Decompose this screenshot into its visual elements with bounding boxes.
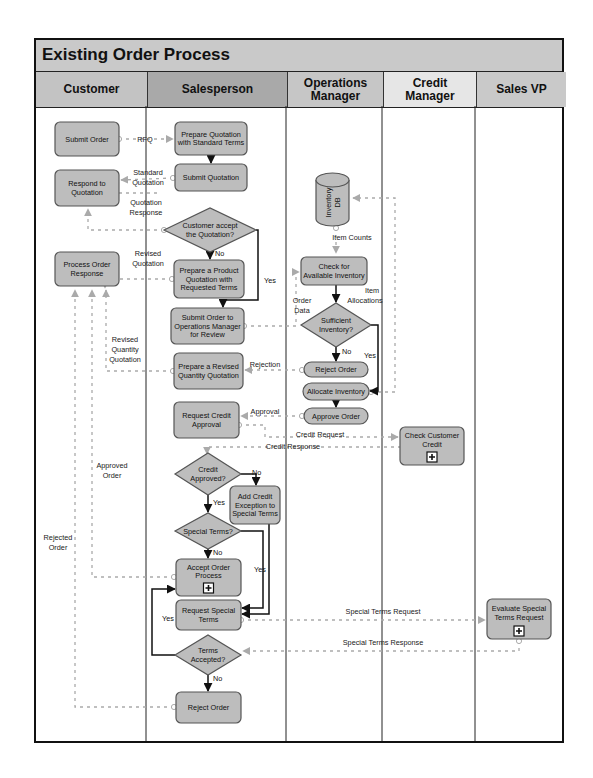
- message-flow-label: Order: [103, 471, 122, 480]
- node-label: Quantity Quotation: [178, 371, 239, 380]
- node-label: Submit Order: [65, 135, 109, 144]
- node-label: Prepare a Product: [179, 266, 238, 275]
- node-label: Check for: [318, 262, 350, 271]
- gateway-terms-accepted[interactable]: TermsAccepted?: [175, 635, 241, 675]
- node-label: Quotation: [71, 188, 103, 197]
- subprocess-plus-icon: [514, 626, 524, 636]
- node-label: Customer accept: [182, 221, 237, 230]
- flow-diagram-canvas: Submit OrderRespond toQuotationProcess O…: [0, 0, 593, 778]
- gateway-sufficient-inventory[interactable]: SufficientInventory?: [301, 303, 371, 347]
- node-label: Exception to: [235, 501, 275, 510]
- sequence-flow-label: No: [252, 468, 261, 477]
- task-reject-order-ops[interactable]: Reject Order: [304, 362, 368, 377]
- message-flow-label: Approval: [251, 407, 280, 416]
- node-label: Submit Order to: [182, 313, 234, 322]
- task-accept-order-process[interactable]: Accept OrderProcess: [176, 559, 241, 596]
- node-label: Credit: [422, 440, 441, 449]
- message-flow-label: Response: [130, 208, 163, 217]
- task-prepare-quotation[interactable]: Prepare Quotationwith Standard Terms: [175, 122, 247, 155]
- inventory-db-datastore: InventoryDB: [316, 173, 349, 226]
- message-flow-label: Order: [49, 543, 68, 552]
- message-flow-label: Order: [293, 296, 312, 305]
- task-check-inventory[interactable]: Check forAvailable Inventory: [301, 257, 367, 285]
- datastore-label: Inventory: [324, 187, 333, 217]
- node-label: Inventory?: [319, 325, 353, 334]
- cylinder-top: [316, 173, 349, 187]
- message-flow-label: Data: [294, 306, 310, 315]
- node-label: Respond to: [68, 179, 105, 188]
- node-label: Requested Terms: [180, 283, 237, 292]
- node-label: Process: [195, 571, 222, 580]
- node-label: Quotation with: [186, 275, 233, 284]
- task-check-customer-credit[interactable]: Check CustomerCredit: [400, 427, 464, 465]
- node-label: the Quotation?: [186, 230, 234, 239]
- gateway-customer-accept[interactable]: Customer acceptthe Quotation?: [164, 208, 256, 252]
- message-flow-label: Revised: [135, 249, 161, 258]
- sequence-flow-label: No: [213, 548, 222, 557]
- sequence-flow-label: Yes: [254, 565, 266, 574]
- message-flow-label: RFQ: [137, 135, 153, 144]
- task-reject-order-sales[interactable]: Reject Order: [176, 692, 241, 723]
- message-flow-label: Quotation: [132, 259, 164, 268]
- node-label: Process Order: [63, 260, 111, 269]
- sequence-flow-label: Yes: [213, 498, 225, 507]
- node-label: Request Special: [182, 606, 236, 615]
- task-process-order-response[interactable]: Process OrderResponse: [55, 252, 119, 286]
- node-label: Request Credit: [182, 411, 231, 420]
- sequence-flow-label: No: [215, 249, 224, 258]
- message-flow-label: Item Counts: [332, 233, 372, 242]
- task-submit-order[interactable]: Submit Order: [55, 122, 119, 156]
- subprocess-plus-icon: [427, 452, 437, 462]
- node-label: Check Customer: [405, 431, 460, 440]
- message-flow-label: Item: [365, 286, 379, 295]
- node-label: Approval: [192, 420, 221, 429]
- node-label: Allocate Inventory: [307, 387, 365, 396]
- message-flow-label: Standard: [133, 168, 163, 177]
- message-flow-label: Rejected: [44, 533, 73, 542]
- task-submit-order-to-ops[interactable]: Submit Order toOperations Managerfor Rev…: [171, 308, 244, 344]
- task-add-credit-exception[interactable]: Add CreditException toSpecial Terms: [230, 486, 280, 524]
- sequence-flow-label: Yes: [162, 614, 174, 623]
- node-label: Accept Order: [187, 563, 231, 572]
- node-label: Sufficient: [321, 316, 351, 325]
- subprocess-plus-icon: [204, 583, 214, 593]
- task-evaluate-special-terms[interactable]: Evaluate SpecialTerms Request: [487, 599, 551, 639]
- node-label: with Standard Terms: [177, 138, 245, 147]
- task-approve-order[interactable]: Approve Order: [304, 408, 368, 424]
- node-label: for Review: [190, 330, 225, 339]
- message-flow-label: Quantity: [111, 345, 139, 354]
- message-flow-label: Credit Request: [296, 430, 345, 439]
- node-label: Prepare Quotation: [181, 130, 241, 139]
- node-label: Reject Order: [188, 703, 230, 712]
- node-label: Submit Quotation: [183, 173, 239, 182]
- sequence-flow-label: No: [213, 674, 222, 683]
- task-request-special-terms[interactable]: Request SpecialTerms: [176, 600, 241, 630]
- task-prepare-product-quotation[interactable]: Prepare a ProductQuotation withRequested…: [174, 260, 244, 298]
- sequence-flow-label: Yes: [264, 276, 276, 285]
- node-label: Approved?: [190, 474, 225, 483]
- message-flows: [75, 139, 519, 707]
- task-allocate-inventory[interactable]: Allocate Inventory: [303, 383, 369, 400]
- node-label: Special Terms: [232, 509, 278, 518]
- message-flow-label: Revised: [112, 335, 138, 344]
- node-label: Operations Manager: [174, 322, 241, 331]
- sequence-flow-label: Yes: [364, 351, 376, 360]
- message-flow-label: Allocations: [347, 296, 383, 305]
- task-request-credit-approval[interactable]: Request CreditApproval: [174, 402, 239, 438]
- task-prepare-revised-quantity[interactable]: Prepare a RevisedQuantity Quotation: [174, 353, 243, 389]
- message-flow-label: Special Terms Response: [343, 638, 424, 647]
- task-submit-quotation[interactable]: Submit Quotation: [175, 164, 247, 191]
- node-label: Approve Order: [312, 412, 360, 421]
- node-label: Terms: [199, 615, 219, 624]
- node-label: Add Credit: [238, 492, 272, 501]
- node-label: Accepted?: [191, 655, 225, 664]
- node-label: Credit: [198, 465, 217, 474]
- message-flow-label: Rejection: [250, 360, 280, 369]
- node-label: Evaluate Special: [492, 604, 547, 613]
- node-label: Terms: [198, 646, 218, 655]
- message-flow-label: Credit Response: [266, 442, 320, 451]
- task-respond-to-quotation[interactable]: Respond toQuotation: [55, 170, 119, 206]
- node-label: Terms Request: [494, 613, 543, 622]
- node-label: Prepare a Revised: [178, 362, 238, 371]
- sequence-flow-label: No: [342, 347, 351, 356]
